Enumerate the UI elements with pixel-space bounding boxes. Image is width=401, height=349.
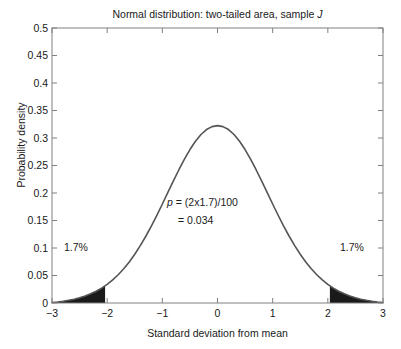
annotation-left-tail-percent: 1.7% bbox=[64, 241, 88, 254]
normal-distribution-curve bbox=[52, 126, 383, 303]
y-axis-ticks-right bbox=[378, 28, 383, 303]
annotation-p-expression: = (2x1.7)/100 bbox=[173, 196, 238, 208]
x-axis-ticks-top bbox=[52, 28, 383, 33]
y-axis-ticks bbox=[52, 28, 57, 303]
chart-figure: Normal distribution: two-tailed area, sa… bbox=[0, 0, 401, 349]
annotation-p-value: = 0.034 bbox=[178, 214, 213, 227]
axes-frame bbox=[52, 28, 383, 303]
plot-area bbox=[0, 0, 401, 349]
right-tail-shaded-area bbox=[330, 286, 383, 303]
annotation-p-formula: p = (2x1.7)/100 bbox=[167, 196, 238, 209]
left-tail-shaded-area bbox=[52, 286, 105, 303]
annotation-right-tail-percent: 1.7% bbox=[340, 241, 364, 254]
